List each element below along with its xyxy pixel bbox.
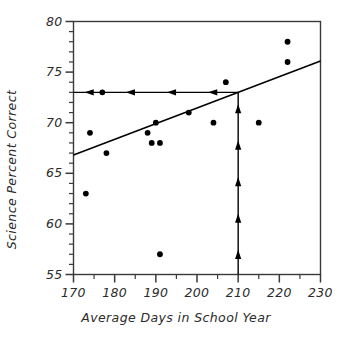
- y-tick-label: 65: [33, 165, 63, 180]
- trend-line-group: [74, 61, 321, 155]
- scatter-plot-figure: 170180190200210220230556065707580 Averag…: [0, 0, 352, 339]
- data-point: [157, 140, 163, 146]
- data-point: [153, 120, 159, 126]
- y-tick-label: 75: [33, 64, 63, 79]
- data-point: [83, 191, 89, 197]
- minor-tick-marks: [69, 32, 300, 279]
- data-point: [87, 130, 93, 136]
- x-tick-label: 180: [95, 285, 135, 300]
- data-points-group: [83, 39, 291, 257]
- y-tick-label: 60: [33, 216, 63, 231]
- axis-frame: [74, 22, 321, 275]
- horizontal-reference-line: [74, 89, 239, 95]
- data-point: [145, 130, 151, 136]
- data-point: [256, 120, 262, 126]
- data-point: [104, 150, 110, 156]
- y-axis-title: Science Percent Correct: [0, 0, 24, 339]
- data-point: [186, 110, 192, 116]
- x-tick-label: 220: [259, 285, 299, 300]
- data-point: [211, 120, 217, 126]
- regression-line: [74, 61, 321, 155]
- data-point: [149, 140, 155, 146]
- x-tick-label: 170: [54, 285, 94, 300]
- x-tick-label: 200: [177, 285, 217, 300]
- x-tick-label: 230: [301, 285, 341, 300]
- y-tick-label: 80: [33, 14, 63, 29]
- data-point: [223, 79, 229, 85]
- y-tick-label: 70: [33, 115, 63, 130]
- data-point: [285, 39, 291, 45]
- data-point: [285, 59, 291, 65]
- y-tick-label: 55: [33, 267, 63, 282]
- x-tick-label: 190: [136, 285, 176, 300]
- reference-lines-group: [74, 89, 242, 274]
- vertical-reference-line: [235, 92, 241, 274]
- x-tick-label: 210: [218, 285, 258, 300]
- data-point: [157, 251, 163, 257]
- data-point: [99, 89, 105, 95]
- x-axis-title: Average Days in School Year: [0, 310, 352, 325]
